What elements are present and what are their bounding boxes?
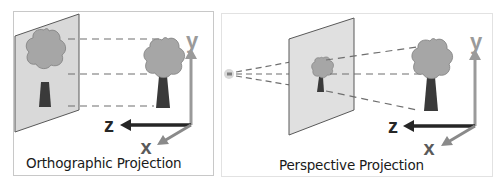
eye-point-icon [224, 69, 234, 79]
z-axis-label: z [388, 115, 398, 137]
z-axis-arrow-icon [120, 119, 131, 131]
perspective-caption: Perspective Projection [279, 157, 424, 173]
orthographic-caption: Orthographic Projection [26, 155, 181, 171]
orthographic-panel: y z x Orthographic Projection [13, 11, 214, 176]
object-tree-icon [144, 38, 185, 108]
projection-rays-near [236, 61, 296, 86]
y-axis-label: y [186, 28, 199, 53]
x-axis-label: x [423, 137, 434, 159]
y-axis-label: y [470, 29, 483, 54]
orthographic-diagram: y z x [14, 12, 215, 177]
projection-lines [68, 39, 159, 106]
object-tree-icon [412, 39, 453, 111]
z-axis-label: z [104, 114, 114, 136]
perspective-diagram: y z x [222, 14, 494, 178]
z-axis-arrow-icon [403, 120, 414, 132]
perspective-panel: y z x Perspective Projection [221, 13, 493, 177]
